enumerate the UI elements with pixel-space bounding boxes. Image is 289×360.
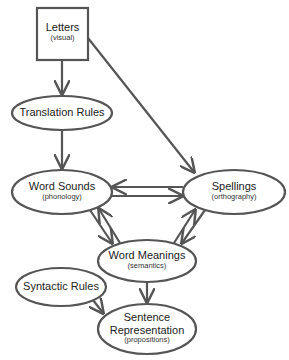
node-word-sounds: Word Sounds (phonology)	[12, 180, 112, 201]
letters-subtitle: (visual)	[37, 34, 88, 43]
word-sounds-title: Word Sounds	[12, 180, 112, 193]
node-letters: Letters (visual)	[37, 21, 88, 42]
word-meanings-title: Word Meanings	[98, 249, 196, 262]
node-sentence: Sentence Representation (propositions)	[98, 311, 196, 345]
node-word-meanings: Word Meanings (semantics)	[98, 249, 196, 270]
word-sounds-subtitle: (phonology)	[12, 193, 112, 202]
spellings-title: Spellings	[183, 180, 285, 193]
node-syntactic: Syntactic Rules	[16, 280, 106, 293]
node-spellings: Spellings (orthography)	[183, 180, 285, 201]
translation-title: Translation Rules	[12, 106, 112, 119]
spellings-subtitle: (orthography)	[183, 193, 285, 202]
syntactic-title: Syntactic Rules	[16, 280, 106, 293]
sentence-title: Sentence	[98, 311, 196, 324]
word-meanings-subtitle: (semantics)	[98, 262, 196, 271]
sentence-subtitle: (propositions)	[98, 336, 196, 345]
node-translation: Translation Rules	[12, 106, 112, 119]
letters-title: Letters	[37, 21, 88, 34]
